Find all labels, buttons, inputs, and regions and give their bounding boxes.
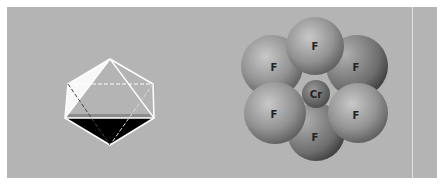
crf6-model: F F F Cr F F F [241, 17, 388, 161]
label-f-upper-left: F [271, 62, 278, 73]
label-f-lower-left: F [271, 109, 278, 120]
label-f-upper-right: F [353, 62, 360, 73]
label-cr: Cr [310, 89, 322, 100]
label-f-top: F [312, 41, 319, 52]
label-f-lower-right: F [353, 110, 360, 121]
figure-drawing: F F F Cr F F F [0, 0, 443, 184]
label-f-bottom: F [312, 132, 319, 143]
octahedron [65, 59, 154, 145]
